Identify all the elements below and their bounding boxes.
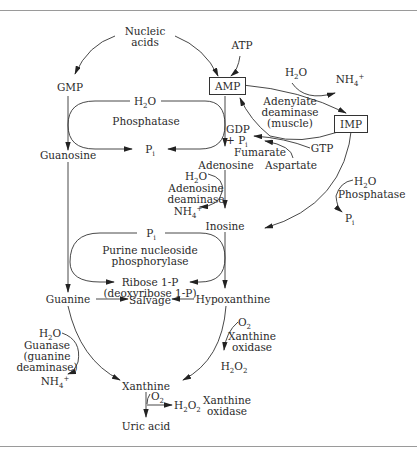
node-inosine: Inosine (206, 221, 245, 232)
enzyme-guanase: Guanase(guaninedeaminase) (16, 340, 77, 373)
enzyme-pnp: Purine nucleosidephosphorylase (102, 245, 198, 267)
node-guanosine: Guanosine (40, 150, 96, 161)
cofactor-gtp: GTP (311, 143, 333, 154)
node-uric-acid: Uric acid (122, 421, 171, 432)
cofactor-fumarate: Fumarate (234, 147, 286, 158)
node-hypoxanthine: Hypoxanthine (196, 294, 270, 305)
enzyme-adenosine-deaminase: Adenosinedeaminase (167, 183, 224, 205)
node-amp: AMP (209, 77, 246, 95)
node-guanine: Guanine (46, 294, 91, 305)
enzyme-phosphatase-right: Phosphatase (338, 189, 405, 200)
cofactor-nh4-amp: NH4+ (336, 74, 365, 85)
node-atp: ATP (231, 40, 252, 51)
node-gmp: GMP (57, 82, 83, 93)
cofactor-h2o-ad: H2O (185, 171, 207, 182)
enzyme-xanthine-oxidase-1: Xanthineoxidase (228, 331, 276, 353)
node-nucleic-acids: Nucleicacids (125, 26, 166, 48)
cofactor-h2o2-xo: H2O2 (221, 361, 248, 372)
cofactor-pi-top: Pi (145, 144, 154, 155)
cofactor-h2o-top: H2O (134, 96, 156, 107)
cofactor-nh4-guanase: NH4+ (41, 376, 70, 387)
cofactor-aspartate: Aspartate (265, 160, 317, 171)
cofactor-h2o-amp: H2O (285, 67, 307, 78)
cofactor-pi-right: Pi (345, 213, 354, 224)
cofactor-o2-xo: O2 (238, 317, 251, 328)
cofactor-pi-pnp: Pi (146, 228, 155, 239)
cofactor-o2-uric: O2 (151, 391, 164, 402)
cofactor-gdp-pi: GDP+ Pi (226, 124, 250, 146)
enzyme-phosphatase-top: Phosphatase (112, 116, 179, 127)
node-imp: IMP (334, 115, 368, 133)
cofactor-nh4-ad: NH4+ (174, 206, 203, 217)
cofactor-h2o2-uric: H2O2 (174, 400, 201, 411)
cofactor-h2o-right: H2O (354, 176, 376, 187)
enzyme-xanthine-oxidase-2: Xanthineoxidase (203, 395, 251, 417)
enzyme-adenylate-deaminase: Adenylatedeaminase(muscle) (261, 96, 318, 129)
node-salvage: Salvage (129, 295, 171, 306)
cofactor-h2o-guanase: H2O (39, 328, 61, 339)
